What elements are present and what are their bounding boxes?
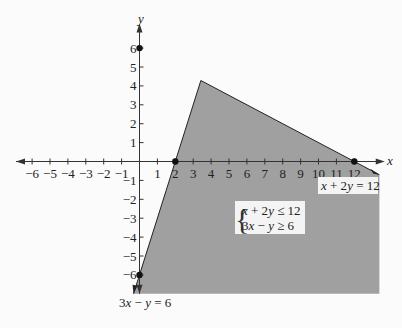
- y-tick-label: −5: [123, 249, 137, 264]
- x-axis-left-arrow-icon: [16, 159, 25, 165]
- x-tick-label: 1: [154, 166, 161, 181]
- y-tick-label: −2: [123, 192, 137, 207]
- chart: −6−5−4−3−2−1123456789101112−6−5−4−3−2−11…: [0, 0, 402, 328]
- x-tick-label: −5: [43, 166, 57, 181]
- data-point: [351, 158, 357, 164]
- data-point: [136, 272, 142, 278]
- system-row1: x + 2y ≤ 12: [241, 203, 301, 218]
- x-tick-label: −6: [25, 166, 39, 181]
- y-tick-label: 2: [130, 116, 137, 131]
- x-tick-label: 3: [190, 166, 197, 181]
- y-tick-label: 5: [130, 60, 137, 75]
- data-point: [172, 158, 178, 164]
- system-row2: 3x − y ≥ 6: [242, 218, 295, 233]
- y-axis-label: y: [136, 11, 144, 26]
- y-tick-label: 4: [130, 78, 137, 93]
- x-axis-right-arrow-icon: [376, 159, 385, 165]
- x-tick-label: 6: [244, 166, 251, 181]
- y-tick-label: −4: [123, 230, 137, 245]
- x-tick-label: −2: [97, 166, 111, 181]
- y-tick-label: 6: [130, 41, 137, 56]
- line2-label: 3x − y = 6: [119, 295, 172, 310]
- line1-label: x + 2y = 12: [320, 178, 380, 193]
- y-tick-label: −1: [123, 173, 137, 188]
- data-point: [136, 45, 142, 51]
- x-axis-label: x: [386, 153, 393, 168]
- x-tick-label: 2: [172, 166, 179, 181]
- y-tick-label: 3: [130, 97, 137, 112]
- x-tick-label: −3: [79, 166, 93, 181]
- x-tick-label: 7: [262, 166, 269, 181]
- y-tick-label: 1: [130, 135, 137, 150]
- x-tick-label: 5: [226, 166, 233, 181]
- y-tick-label: −3: [123, 211, 137, 226]
- y-tick-label: −6: [123, 267, 137, 282]
- x-tick-label: −4: [61, 166, 75, 181]
- x-tick-label: 8: [279, 166, 286, 181]
- x-tick-label: 9: [297, 166, 304, 181]
- x-tick-label: 4: [208, 166, 215, 181]
